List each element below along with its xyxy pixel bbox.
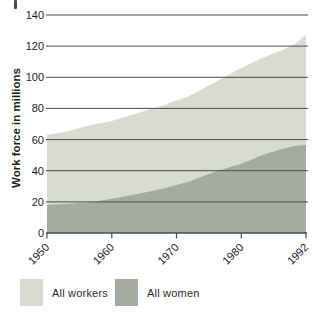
y-tick-label-80: 80: [32, 102, 44, 114]
y-tick-label-0: 0: [38, 227, 44, 239]
legend-swatch-all-workers: [20, 279, 43, 306]
y-tick-label-40: 40: [32, 165, 44, 177]
x-tick-label-1960: 1960: [90, 241, 116, 267]
area-chart-canvas: 14012010080604020019501960197019801992Wo…: [0, 0, 320, 272]
legend-swatch-all-women: [115, 279, 138, 306]
workforce-chart-figure: 14012010080604020019501960197019801992Wo…: [0, 0, 320, 325]
x-tick-label-1970: 1970: [155, 241, 181, 267]
x-tick-label-1992: 1992: [285, 241, 311, 267]
x-tick-label-1980: 1980: [220, 241, 246, 267]
y-axis-title: Work force in millions: [10, 68, 22, 188]
legend: All workers All women: [0, 279, 320, 309]
legend-item-all-women: All women: [115, 279, 200, 306]
x-tick-label-1950: 1950: [26, 241, 52, 267]
legend-label-all-workers: All workers: [52, 287, 108, 299]
y-tick-label-60: 60: [32, 134, 44, 146]
legend-item-all-workers: All workers: [20, 279, 108, 306]
y-tick-label-20: 20: [32, 196, 44, 208]
y-tick-label-140: 140: [26, 9, 44, 21]
legend-label-all-women: All women: [147, 287, 200, 299]
y-tick-label-100: 100: [26, 71, 44, 83]
y-tick-label-120: 120: [26, 40, 44, 52]
